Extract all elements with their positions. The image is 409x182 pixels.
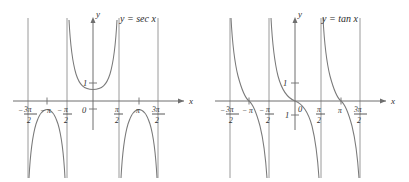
xtick-neg-pi-2-den: 2 (266, 116, 270, 125)
xtick-neg-pi-2-sign: − (259, 106, 264, 115)
xtick-pos-3pi-2-num: 3π (151, 105, 160, 114)
xtick-pos-3pi-2-num: 3π (353, 105, 362, 114)
tan-chart-svg: x y y = tan x 0 1 1 − 3π 2 − π − π (204, 0, 409, 182)
sec-branch-right-down (121, 110, 157, 179)
tan-chart-panel: x y y = tan x 0 1 1 − 3π 2 − π − π (204, 0, 409, 182)
y-tick-label-1: 1 (83, 78, 87, 88)
y-tick-label-neg-1: 1 (285, 110, 289, 120)
xtick-neg-pi-2-den: 2 (64, 116, 68, 125)
y-tick-label-pos-1: 1 (283, 78, 287, 88)
xtick-neg-pi-sign: − (242, 106, 247, 115)
origin-label: 0 (82, 105, 87, 115)
sec-chart-svg: x y y = sec x 0 1 − 3π 2 − π − π (0, 0, 205, 182)
xtick-neg-3pi-2-num: 3π (225, 105, 234, 114)
x-axis-arrowhead (380, 98, 386, 103)
xtick-neg-pi-num: π (249, 106, 253, 115)
xtick-neg-3pi-2-sign: − (220, 106, 225, 115)
xtick-pos-pi-2-den: 2 (317, 116, 321, 125)
xtick-label-neg-pi-2: − π 2 (57, 105, 72, 125)
xtick-neg-3pi-2-num: 3π (23, 105, 32, 114)
x-axis-label: x (188, 96, 193, 106)
xtick-label-neg-pi-2: − π 2 (259, 105, 274, 125)
xtick-pos-3pi-2-den: 2 (155, 116, 159, 125)
y-axis-arrowhead (91, 17, 96, 23)
y-axis-label: y (297, 9, 302, 19)
trig-graph-figure-pair: x y y = sec x 0 1 − 3π 2 − π − π (0, 0, 409, 182)
xtick-neg-3pi-2-sign: − (18, 106, 23, 115)
xtick-label-pos-pi: π (136, 106, 140, 115)
xtick-pos-pi-2-num: π (317, 105, 321, 114)
xtick-pos-3pi-2-den: 2 (357, 116, 361, 125)
sec-chart-panel: x y y = sec x 0 1 − 3π 2 − π − π (0, 0, 205, 182)
xtick-neg-pi-2-num: π (266, 105, 270, 114)
y-axis-arrowhead (293, 17, 298, 23)
xtick-pos-pi-num: π (338, 106, 342, 115)
xtick-neg-pi-2-num: π (64, 105, 68, 114)
xtick-pos-pi-num: π (136, 106, 140, 115)
xtick-neg-pi-sign: − (40, 106, 45, 115)
xtick-neg-pi-2-sign: − (57, 106, 62, 115)
xtick-pos-pi-2-num: π (115, 105, 119, 114)
xtick-neg-pi-num: π (47, 106, 51, 115)
xtick-label-pos-pi: π (338, 106, 342, 115)
x-axis-arrowhead (178, 98, 184, 103)
xtick-neg-3pi-2-den: 2 (229, 116, 233, 125)
xtick-label-neg-pi: − π (40, 106, 51, 115)
sec-branch-left-down (29, 110, 65, 179)
tan-equation-label: y = tan x (321, 13, 358, 24)
xtick-pos-pi-2-den: 2 (115, 116, 119, 125)
sec-equation-label: y = sec x (119, 13, 156, 24)
y-axis-label: y (95, 9, 100, 19)
xtick-neg-3pi-2-den: 2 (27, 116, 31, 125)
xtick-label-neg-pi: − π (242, 106, 253, 115)
x-axis-label: x (390, 96, 395, 106)
